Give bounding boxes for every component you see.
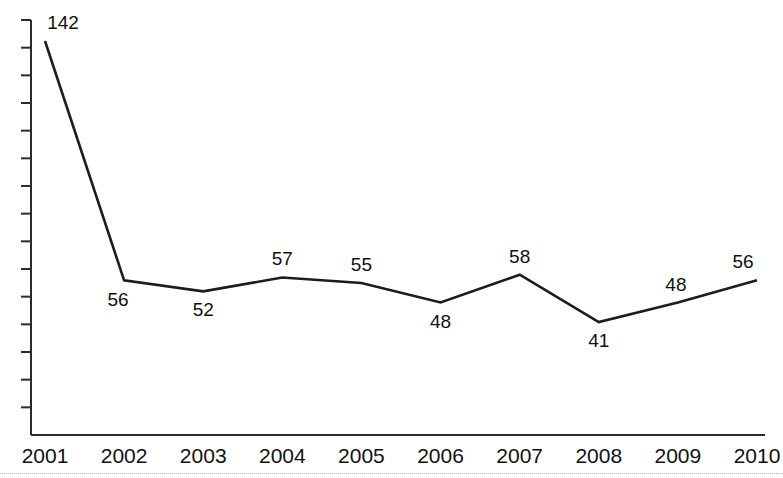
y-axis [21,20,31,435]
data-point-label: 52 [193,299,214,320]
bottom-divider [0,473,783,475]
x-axis-tick-label: 2010 [734,444,781,467]
x-axis-tick-label: 2006 [417,444,464,467]
x-axis-tick-label: 2003 [180,444,227,467]
data-point-label: 48 [430,311,451,332]
x-axis-tick-labels: 2001200220032004200520062007200820092010 [22,444,781,467]
x-axis-tick-label: 2008 [575,444,622,467]
data-point-label: 56 [732,251,753,272]
data-series-line [45,41,757,322]
line-chart: 142565257554858414856 200120022003200420… [0,0,783,478]
data-point-label: 41 [588,330,609,351]
x-axis-tick-label: 2002 [101,444,148,467]
x-axis-tick-label: 2004 [259,444,306,467]
data-point-label: 142 [47,12,79,33]
data-point-label: 57 [272,248,293,269]
data-point-label: 48 [665,274,686,295]
data-point-label: 56 [108,289,129,310]
x-axis-tick-label: 2007 [496,444,543,467]
data-series-group [45,41,757,322]
data-point-label: 58 [509,246,530,267]
data-point-label: 55 [351,254,372,275]
x-axis-tick-label: 2005 [338,444,385,467]
chart-canvas: 142565257554858414856 200120022003200420… [0,0,783,478]
data-point-labels: 142565257554858414856 [47,12,753,351]
y-axis-ticks [21,20,31,407]
x-axis-tick-label: 2001 [22,444,69,467]
x-axis-tick-label: 2009 [655,444,702,467]
